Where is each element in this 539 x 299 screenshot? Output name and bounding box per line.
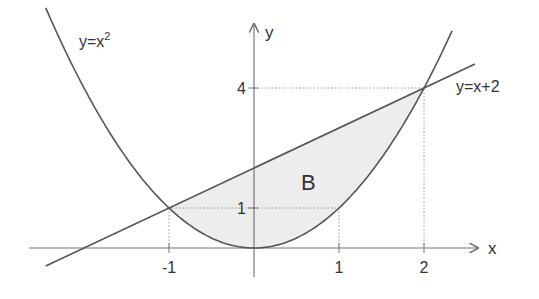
region-b-label: B bbox=[301, 170, 316, 195]
diagram-canvas: x y y=x2 y=x+2 B -1 1 2 1 4 bbox=[0, 0, 539, 299]
y-tick-label: 1 bbox=[237, 200, 246, 217]
x-tick-label: 2 bbox=[420, 259, 429, 276]
x-axis-label: x bbox=[488, 239, 497, 258]
y-axis-label: y bbox=[265, 23, 274, 42]
x-tick-label: -1 bbox=[162, 259, 176, 276]
region-b-fill bbox=[169, 88, 424, 248]
parabola-label-base: y=x bbox=[79, 33, 104, 50]
x-tick-label: 1 bbox=[335, 259, 344, 276]
y-tick-label: 4 bbox=[237, 80, 246, 97]
parabola-label-sup: 2 bbox=[104, 30, 110, 42]
parabola-label: y=x2 bbox=[79, 30, 110, 50]
line-label: y=x+2 bbox=[456, 78, 500, 95]
